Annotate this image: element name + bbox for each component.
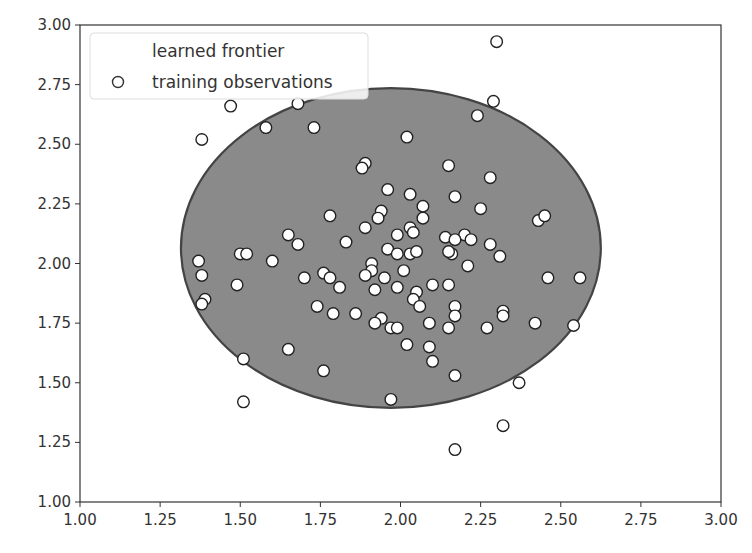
observation-point xyxy=(372,212,384,224)
y-tick-label: 2.25 xyxy=(38,195,71,213)
x-tick-label: 1.75 xyxy=(304,511,337,529)
observation-point xyxy=(308,122,320,134)
observation-point xyxy=(267,255,279,267)
observation-point xyxy=(359,270,371,282)
y-tick-label: 3.00 xyxy=(38,16,71,34)
observation-point xyxy=(465,234,477,246)
observation-point xyxy=(443,160,455,172)
y-tick-label: 1.00 xyxy=(38,493,71,511)
observation-point xyxy=(404,189,416,201)
y-tick-label: 2.00 xyxy=(38,255,71,273)
observation-point xyxy=(193,255,205,267)
y-tick-label: 1.25 xyxy=(38,433,71,451)
observation-point xyxy=(475,203,487,215)
observation-point xyxy=(196,134,208,146)
observation-point xyxy=(401,339,413,351)
observation-point xyxy=(539,210,551,222)
observation-point xyxy=(299,272,311,284)
observation-point xyxy=(401,131,413,143)
observation-point xyxy=(443,279,455,291)
observation-point xyxy=(424,317,436,329)
x-tick-label: 2.25 xyxy=(464,511,497,529)
observation-point xyxy=(472,110,484,122)
observation-point xyxy=(417,200,429,212)
observation-point xyxy=(449,444,461,456)
y-axis-ticks: 1.001.251.501.752.002.252.502.753.00 xyxy=(38,16,80,511)
observation-point xyxy=(449,234,461,246)
legend-label-frontier: learned frontier xyxy=(152,41,284,61)
observation-point xyxy=(568,320,580,332)
observation-point xyxy=(369,317,381,329)
x-axis-ticks: 1.001.251.501.752.002.252.502.753.00 xyxy=(63,502,737,529)
observation-point xyxy=(283,344,295,356)
observation-point xyxy=(340,236,352,248)
observation-point xyxy=(391,322,403,334)
observation-point xyxy=(408,227,420,239)
observation-point xyxy=(327,308,339,320)
observation-point xyxy=(391,248,403,260)
observation-point xyxy=(443,322,455,334)
observation-point xyxy=(283,229,295,241)
observation-point xyxy=(324,272,336,284)
observation-point xyxy=(318,365,330,377)
x-tick-label: 1.25 xyxy=(143,511,176,529)
observation-point xyxy=(484,172,496,184)
y-tick-label: 2.50 xyxy=(38,135,71,153)
observation-point xyxy=(494,251,506,263)
observation-point xyxy=(462,260,474,272)
x-tick-label: 2.75 xyxy=(624,511,657,529)
observation-point xyxy=(497,420,509,432)
observation-point xyxy=(449,370,461,382)
observation-point xyxy=(497,310,509,322)
observation-point xyxy=(385,394,397,406)
observation-point xyxy=(356,162,368,174)
y-tick-label: 1.50 xyxy=(38,374,71,392)
x-tick-label: 3.00 xyxy=(704,511,737,529)
observation-point xyxy=(427,279,439,291)
observation-point xyxy=(484,239,496,251)
observation-point xyxy=(449,310,461,322)
observation-point xyxy=(238,353,250,365)
observation-point xyxy=(481,322,493,334)
observation-point xyxy=(350,308,362,320)
observation-point xyxy=(231,279,243,291)
x-tick-label: 2.00 xyxy=(384,511,417,529)
observation-point xyxy=(324,210,336,222)
observation-point xyxy=(241,248,253,260)
observation-point xyxy=(529,317,541,329)
observation-point xyxy=(398,265,410,277)
observation-point xyxy=(260,122,272,134)
observation-point xyxy=(292,239,304,251)
x-tick-label: 2.50 xyxy=(544,511,577,529)
observation-point xyxy=(411,246,423,258)
observation-point xyxy=(196,270,208,282)
observation-point xyxy=(359,222,371,234)
observation-point xyxy=(449,191,461,203)
observation-point xyxy=(311,301,323,313)
observation-point xyxy=(574,272,586,284)
observation-point xyxy=(424,341,436,353)
observation-point xyxy=(238,396,250,408)
observation-point xyxy=(542,272,554,284)
observation-point xyxy=(382,184,394,196)
x-tick-label: 1.00 xyxy=(63,511,96,529)
scatter-chart: 1.001.251.501.752.002.252.502.753.00 1.0… xyxy=(0,0,752,553)
observation-point xyxy=(391,229,403,241)
observation-point xyxy=(491,36,503,48)
observation-point xyxy=(513,377,525,389)
observation-point xyxy=(391,282,403,294)
y-tick-label: 1.75 xyxy=(38,314,71,332)
legend: learned frontier training observations xyxy=(90,33,368,99)
legend-label-observations: training observations xyxy=(152,72,333,92)
observation-point xyxy=(334,282,346,294)
observation-point xyxy=(369,284,381,296)
observation-point xyxy=(379,272,391,284)
observation-point xyxy=(427,355,439,367)
observation-point xyxy=(488,96,500,108)
observation-point xyxy=(417,212,429,224)
observation-point xyxy=(292,98,304,110)
observation-point xyxy=(414,301,426,313)
y-tick-label: 2.75 xyxy=(38,76,71,94)
observation-point xyxy=(443,246,455,258)
observation-point xyxy=(225,100,237,112)
